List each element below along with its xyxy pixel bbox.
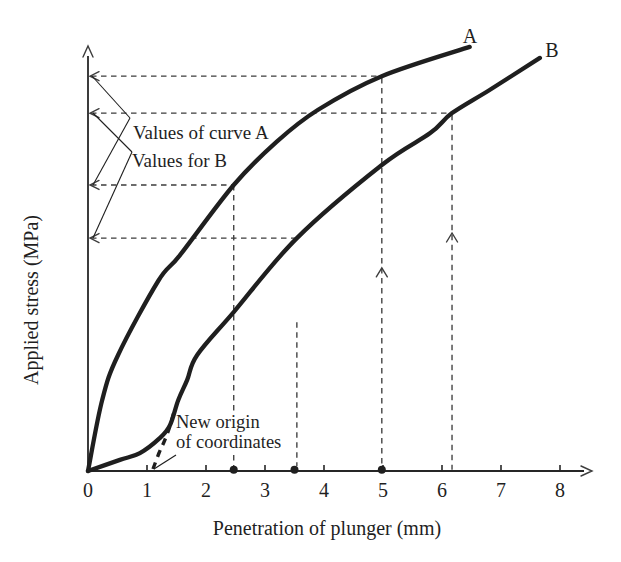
x-tick-label: 2	[201, 479, 211, 501]
values-for-b-label: Values for B	[132, 150, 227, 171]
chart-canvas: 012345678ABValues of curve AValues for B…	[0, 0, 621, 562]
axis-dot	[378, 466, 386, 474]
curve-a-label: A	[463, 25, 478, 47]
x-tick-label: 4	[319, 479, 329, 501]
x-tick-label: 0	[83, 479, 93, 501]
x-tick-label: 5	[378, 479, 388, 501]
axis-dot	[230, 466, 238, 474]
axis-dot	[291, 466, 299, 474]
leader-line	[92, 76, 130, 118]
leader-line	[93, 152, 132, 238]
y-axis-label: Applied stress (MPa)	[20, 215, 43, 385]
values-of-curve-a-label: Values of curve A	[133, 122, 269, 143]
cbr-chart-figure: 012345678ABValues of curve AValues for B…	[0, 0, 621, 562]
curve-b	[88, 58, 540, 471]
x-tick-label: 1	[142, 479, 152, 501]
new-origin-pointer-line	[154, 455, 176, 469]
curve-b-label: B	[545, 39, 558, 61]
x-axis-label: Penetration of plunger (mm)	[213, 517, 441, 540]
x-tick-label: 8	[555, 479, 565, 501]
x-tick-label: 3	[260, 479, 270, 501]
new-origin-label-line2: of coordinates	[176, 432, 281, 452]
new-origin-label-line1: New origin	[176, 412, 260, 432]
x-tick-label: 6	[437, 479, 447, 501]
leader-line	[93, 113, 132, 152]
x-tick-label: 7	[496, 479, 506, 501]
leader-line	[93, 118, 130, 185]
y-axis-arrow-icon	[83, 46, 93, 57]
